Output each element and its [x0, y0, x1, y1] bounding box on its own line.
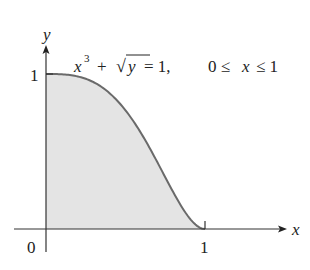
eq-y: y: [126, 57, 136, 76]
eq-equals-one: = 1,: [144, 57, 171, 76]
eq-x: x: [73, 57, 82, 76]
y-tick-label-1: 1: [30, 66, 39, 85]
eq-domain-zero: 0 ≤: [208, 57, 230, 76]
eq-radical: √: [116, 56, 126, 76]
eq-domain-x: x: [241, 57, 250, 76]
x-tick-label-1: 1: [200, 238, 209, 257]
origin-label: 0: [27, 238, 36, 257]
eq-domain-le-one: ≤ 1: [256, 57, 278, 76]
eq-plus: +: [97, 57, 107, 76]
x-axis-label: x: [291, 220, 300, 239]
chart-svg: y x 1 1 0 x 3 + √ y = 1, 0 ≤ x ≤ 1: [0, 0, 310, 270]
equation-annotation: x 3 + √ y = 1, 0 ≤ x ≤ 1: [73, 52, 278, 76]
eq-exponent: 3: [84, 52, 90, 64]
y-axis-label: y: [41, 25, 51, 44]
figure: y x 1 1 0 x 3 + √ y = 1, 0 ≤ x ≤ 1: [0, 0, 310, 270]
